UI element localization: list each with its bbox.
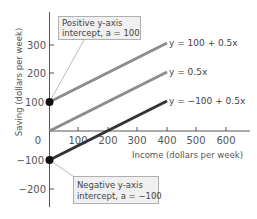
positive-intercept-callout: Positive y-axis intercept, a = 100 (59, 17, 141, 40)
series-label: y = 0.5x (169, 67, 208, 77)
negative-intercept-point (46, 156, 54, 164)
x-tick-label: 600 (216, 135, 235, 146)
x-axis-title: Income (dollars per week) (132, 150, 243, 160)
callout-line: Negative y-axis (77, 180, 143, 190)
y-axis-title: Saving (dollars per week) (14, 28, 24, 136)
y-tick-label: −200 (19, 184, 46, 195)
series-label: y = 100 + 0.5x (169, 38, 238, 48)
y-tick-label: 300 (27, 40, 46, 51)
series-line-positive-intercept (50, 43, 168, 102)
callout-line: Positive y-axis (62, 18, 123, 28)
saving-function-chart: 300 200 100 −100 −200 0 100 200 300 400 … (0, 0, 257, 219)
x-ticks (78, 127, 226, 131)
y-tick-label: −100 (17, 155, 44, 166)
x-tick-label: 300 (127, 135, 146, 146)
callout-line: intercept, a = 100 (62, 28, 140, 38)
x-tick-label: 500 (186, 135, 205, 146)
series-label: y = −100 + 0.5x (169, 96, 246, 106)
negative-intercept-callout: Negative y-axis intercept, a = −100 (74, 177, 162, 204)
y-ticks (50, 45, 55, 189)
x-tick-label: 400 (157, 135, 176, 146)
series-line-zero-intercept (50, 72, 168, 131)
x-tick-label: 200 (98, 135, 117, 146)
y-tick-label: 200 (27, 68, 46, 79)
y-tick-label: 100 (25, 97, 44, 108)
callout-line: intercept, a = −100 (77, 191, 162, 201)
positive-intercept-point (46, 98, 54, 106)
origin-label: 0 (35, 135, 41, 146)
